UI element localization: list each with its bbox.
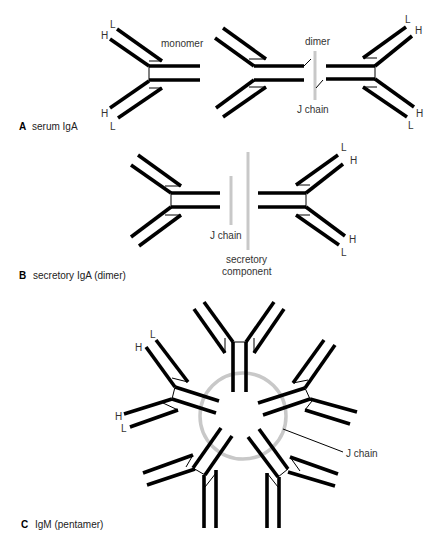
igm-monomer-lower-right <box>248 429 338 528</box>
immunoglobulin-diagram: H L H L monomer <box>0 0 441 546</box>
light-chain-label: L <box>341 247 347 258</box>
j-chain-label: J chain <box>210 230 242 241</box>
j-chain-label: J chain <box>346 448 378 459</box>
heavy-chain-label: H <box>349 234 356 245</box>
igm-monomer-right <box>258 340 357 424</box>
light-chain-label: L <box>110 121 116 132</box>
igm-monomer-lower-left <box>143 428 232 528</box>
light-chain-label: L <box>121 423 127 434</box>
igm-monomer-upper-left: H L H L <box>115 329 219 434</box>
heavy-chain-label: H <box>115 411 122 422</box>
panel-a: H L H L monomer <box>19 14 423 132</box>
light-chain-label: L <box>408 120 414 131</box>
panel-b-letter: B <box>19 270 26 281</box>
heavy-chain-label: H <box>415 25 422 36</box>
heavy-chain-label: H <box>350 155 357 166</box>
panel-b-caption: secretory IgA (dimer) <box>33 270 126 281</box>
panel-a-caption: serum IgA <box>32 121 78 132</box>
heavy-chain-label: H <box>416 108 423 119</box>
panel-c-letter: C <box>21 519 28 530</box>
j-chain-leader-line <box>283 429 343 452</box>
panel-c: H L H L <box>21 302 378 530</box>
panel-a-letter: A <box>19 121 26 132</box>
heavy-chain-label: H <box>101 108 108 119</box>
heavy-chain-label: H <box>135 342 142 353</box>
secretory-component-label: component <box>222 266 272 277</box>
light-chain-label: L <box>405 14 411 25</box>
light-chain-label: L <box>150 329 156 340</box>
iga-dimer: dimer J chain L H H L <box>215 14 423 131</box>
heavy-chain-label: H <box>101 30 108 41</box>
light-chain-label: L <box>110 19 116 30</box>
panel-c-caption: IgM (pentamer) <box>35 519 103 530</box>
iga-monomer: H L H L monomer <box>101 19 204 132</box>
igm-monomer-top <box>194 302 284 392</box>
panel-b: L H H L J chain secretory component B se… <box>19 142 357 281</box>
monomer-label: monomer <box>161 38 204 49</box>
j-chain-label: J chain <box>297 104 329 115</box>
secretory-component-label: secretory <box>226 254 267 265</box>
light-chain-label: L <box>341 142 347 153</box>
dimer-label: dimer <box>305 36 331 47</box>
